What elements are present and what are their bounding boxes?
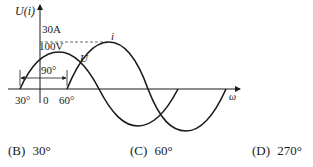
x-axis-label: ω xyxy=(229,91,236,102)
option-c-value: 60° xyxy=(155,143,173,158)
y-axis-label: U(i) xyxy=(15,4,35,18)
phase-diagram: U(i) 30A 100V U i 90° ω 30° 0 60° xyxy=(0,0,313,143)
option-d-key: (D) xyxy=(252,143,270,158)
option-c-key: (C) xyxy=(130,143,147,158)
option-d[interactable]: (D) 270° xyxy=(252,143,302,159)
tick-right-label: 60° xyxy=(59,94,74,106)
option-b-key: (B) xyxy=(8,143,25,158)
current-amplitude-label: 30A xyxy=(42,23,61,35)
option-d-value: 270° xyxy=(277,143,302,158)
origin-label: 0 xyxy=(43,94,49,106)
voltage-amplitude-label: 100V xyxy=(39,40,64,52)
option-c[interactable]: (C) 60° xyxy=(130,143,173,159)
phase-span-label: 90° xyxy=(41,64,56,76)
option-b-value: 30° xyxy=(33,143,51,158)
option-b[interactable]: (B) 30° xyxy=(8,143,51,159)
tick-left-label: 30° xyxy=(15,94,30,106)
answer-options: (B) 30° (C) 60° (D) 270° xyxy=(0,143,313,163)
curve-i-label: i xyxy=(111,30,114,42)
current-curve xyxy=(67,42,226,131)
curve-u-label: U xyxy=(80,52,89,64)
